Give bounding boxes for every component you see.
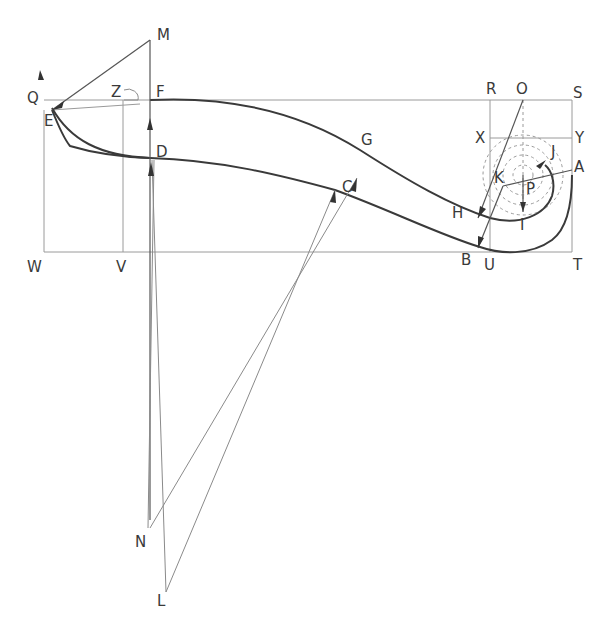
label-F: F <box>156 83 165 101</box>
label-N: N <box>135 533 146 551</box>
label-U: U <box>484 256 495 274</box>
label-G: G <box>361 131 373 149</box>
label-A: A <box>574 158 585 176</box>
label-H: H <box>452 204 463 222</box>
label-E: E <box>44 112 53 130</box>
point-labels: M F Z Q E D W V G C R O S X Y J A K P H … <box>27 26 585 610</box>
label-L: L <box>157 592 166 610</box>
label-B: B <box>461 251 471 269</box>
z-semicircle-mark <box>124 89 138 100</box>
label-W: W <box>27 258 42 276</box>
label-O: O <box>516 80 528 98</box>
label-X: X <box>475 129 485 147</box>
label-R: R <box>486 80 496 98</box>
label-T: T <box>572 256 583 274</box>
label-D: D <box>156 143 168 161</box>
label-S: S <box>573 84 583 102</box>
geometric-construction-diagram: M F Z Q E D W V G C R O S X Y J A K P H … <box>0 0 589 635</box>
construction-rays <box>52 40 572 592</box>
label-V: V <box>116 258 127 276</box>
label-K: K <box>494 169 505 187</box>
label-J: J <box>550 143 555 161</box>
label-M: M <box>157 26 170 44</box>
label-Z: Z <box>111 83 121 101</box>
label-C: C <box>342 178 352 196</box>
label-Y: Y <box>574 129 585 147</box>
label-Q: Q <box>27 89 39 107</box>
label-P: P <box>526 180 535 198</box>
label-I: I <box>520 216 524 234</box>
